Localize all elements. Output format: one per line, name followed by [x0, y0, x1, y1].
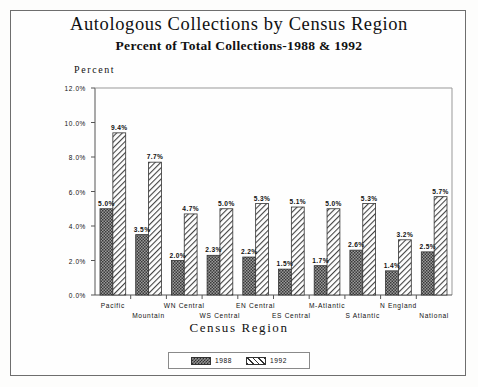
plot-area: Percent 0.0%2.0%4.0%6.0%8.0%10.0%12.0%Pa… [0, 0, 478, 387]
x-axis-title: Census Region [0, 320, 478, 336]
legend-swatch-1988-icon [191, 357, 211, 365]
bar-value-label: 2.6% [348, 241, 365, 248]
y-tick-label: 8.0% [54, 154, 86, 161]
bar-value-label: 1.7% [312, 257, 329, 264]
x-tick-label: M-Atlantic [309, 302, 345, 309]
y-tick-label: 0.0% [54, 292, 86, 299]
bar-value-label: 5.1% [289, 198, 306, 205]
bar-value-label: 2.0% [169, 252, 186, 259]
bar-value-label: 4.7% [182, 205, 199, 212]
x-tick-label: N England [380, 302, 417, 309]
bar-value-label: 3.5% [134, 226, 151, 233]
y-tick-label: 6.0% [54, 188, 86, 195]
chart-legend: 1988 1992 [168, 352, 310, 369]
x-tick-label: WN Central [164, 302, 205, 309]
bar-value-label: 7.7% [147, 153, 164, 160]
x-tick-label: Mountain [132, 312, 165, 319]
bar-value-label: 2.2% [241, 248, 258, 255]
bar-value-label: 2.5% [419, 243, 436, 250]
bar-value-label: 5.3% [361, 195, 378, 202]
y-tick-label: 2.0% [54, 257, 86, 264]
x-tick-label: WS Central [200, 312, 241, 319]
bar-value-label: 1.4% [384, 262, 401, 269]
x-tick-label: National [419, 312, 449, 319]
bar-value-label: 5.0% [325, 200, 342, 207]
legend-label-1988: 1988 [215, 357, 232, 364]
bar-value-label: 1.5% [277, 260, 294, 267]
bar-value-label: 9.4% [111, 124, 128, 131]
x-tick-label: ES Central [272, 312, 311, 319]
legend-label-1992: 1992 [270, 357, 287, 364]
legend-swatch-1992-icon [246, 357, 266, 365]
bar-value-label: 5.0% [218, 200, 235, 207]
x-tick-label: EN Central [236, 302, 275, 309]
bar-value-label: 3.2% [397, 231, 414, 238]
chart-page: Autologous Collections by Census Region … [0, 0, 478, 387]
bar-value-label: 5.7% [432, 188, 449, 195]
legend-item-1988: 1988 [191, 357, 232, 365]
x-tick-label: S Atlantic [346, 312, 381, 319]
y-tick-label: 12.0% [54, 85, 86, 92]
bar-value-label: 5.3% [254, 195, 271, 202]
legend-item-1992: 1992 [246, 357, 287, 365]
y-tick-label: 4.0% [54, 223, 86, 230]
bar-value-label: 5.0% [98, 200, 115, 207]
y-tick-label: 10.0% [54, 119, 86, 126]
x-tick-label: Pacific [101, 302, 125, 309]
bar-value-label: 2.3% [205, 246, 222, 253]
